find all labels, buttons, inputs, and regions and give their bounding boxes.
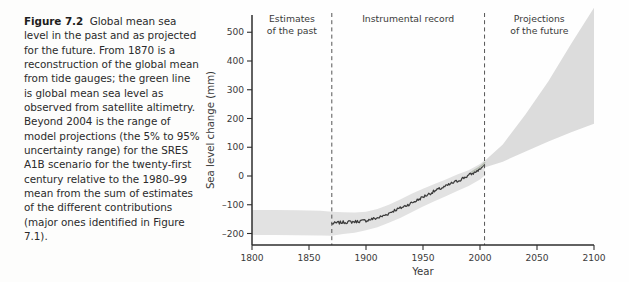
y-tick-label: 400 <box>227 56 245 66</box>
x-tick-label: 1950 <box>411 253 434 263</box>
estimates-uncertainty-band <box>252 210 332 236</box>
x-tick-label: 1900 <box>354 253 377 263</box>
figure-container: Figure 7.2 Global mean sea level in the … <box>0 0 629 282</box>
x-tick-label: 1850 <box>297 253 320 263</box>
y-tick-label: 300 <box>227 85 245 95</box>
y-tick-label: 100 <box>227 142 245 152</box>
figure-number: Figure 7.2 <box>24 15 83 27</box>
region-label: Projectionsof the future <box>510 13 568 36</box>
caption-text: Global mean sea level in the past and as… <box>24 15 200 242</box>
y-tick-label: 0 <box>238 171 244 181</box>
x-tick-label: 2050 <box>525 253 548 263</box>
x-tick-label: 2000 <box>468 253 491 263</box>
y-tick-label: 500 <box>227 27 245 37</box>
figure-caption: Figure 7.2 Global mean sea level in the … <box>24 14 200 244</box>
y-tick-label: 200 <box>227 114 245 124</box>
chart-plot-area: 1800185019001950200020502100 –200–100010… <box>200 0 629 282</box>
x-axis-title: Year <box>411 266 434 277</box>
y-tick-label: –200 <box>222 229 244 239</box>
y-tick-label: –100 <box>222 200 244 210</box>
region-label: Estimatesof the past <box>267 13 318 36</box>
x-tick-label: 2100 <box>582 253 605 263</box>
plot-background <box>200 0 629 282</box>
x-tick-label: 1800 <box>240 253 263 263</box>
sea-level-chart: 1800185019001950200020502100 –200–100010… <box>200 0 629 282</box>
region-label: Instrumental record <box>362 13 454 24</box>
y-axis-title: Sea level change (mm) <box>205 71 216 189</box>
